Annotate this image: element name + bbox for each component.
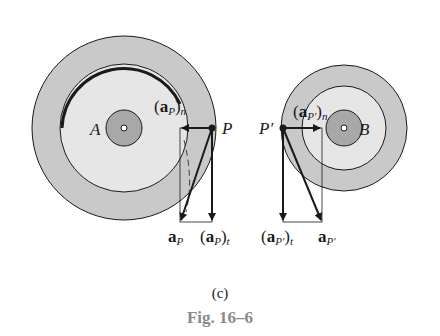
panel-label: (c) xyxy=(0,286,440,301)
label-tangential-accel-p-prime: (aP′)t xyxy=(261,228,293,247)
figure-caption: Fig. 16–6 xyxy=(0,309,440,326)
label-point-p-prime: P′ xyxy=(259,120,273,137)
label-center-b: B xyxy=(359,121,369,138)
label-tangential-accel-p: (aP)t xyxy=(200,228,230,247)
label-total-accel-p: aP xyxy=(168,228,183,247)
label-normal-accel-p-prime: (aP′)n xyxy=(293,103,327,122)
label-center-a: A xyxy=(90,121,100,138)
label-normal-accel-p: (aP)n xyxy=(154,98,186,117)
label-total-accel-p-prime: aP′ xyxy=(318,228,336,247)
label-point-p: P xyxy=(222,120,232,137)
